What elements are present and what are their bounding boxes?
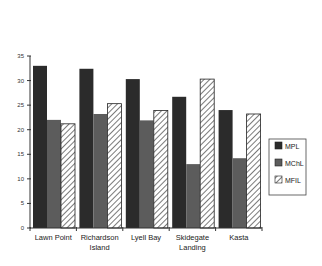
y-tick-label: 35 (17, 53, 24, 59)
y-tick-label: 5 (21, 200, 25, 206)
legend-swatch-mpl (275, 142, 282, 149)
x-category-label: Lyell Bay (131, 233, 161, 242)
legend-swatch-mchl (275, 159, 282, 166)
legend: MPLMChLMFIL (269, 139, 306, 195)
legend-label: MFIL (285, 177, 301, 184)
bar-chart: 05101520253035 Lawn PointRichardsonIslan… (0, 0, 322, 266)
bar-mfil (107, 104, 121, 228)
y-tick-label: 15 (17, 151, 24, 157)
bar-mpl (33, 66, 47, 228)
bar-mchl (93, 114, 107, 228)
y-tick-label: 20 (17, 127, 24, 133)
bars (33, 66, 261, 228)
legend-label: MChL (285, 160, 304, 167)
legend-swatch-mfil (275, 176, 282, 183)
bar-mpl (126, 79, 140, 228)
y-tick-label: 0 (21, 225, 25, 231)
bar-mchl (186, 164, 200, 228)
x-category-label: Lawn Point (35, 233, 73, 242)
bar-mfil (154, 111, 168, 228)
y-tick-label: 30 (17, 78, 24, 84)
bar-mfil (200, 79, 214, 228)
y-tick-label: 25 (17, 102, 24, 108)
x-category-label: SkidegateLanding (176, 233, 209, 252)
legend-label: MPL (285, 143, 300, 150)
bar-mfil (61, 124, 75, 228)
bar-mfil (247, 114, 261, 228)
bar-mchl (233, 158, 247, 228)
bar-mchl (140, 120, 154, 228)
y-axis: 05101520253035 (17, 53, 31, 231)
bar-mpl (219, 110, 233, 228)
bar-mchl (47, 120, 61, 228)
x-category-label: Kasta (229, 233, 249, 242)
x-category-label: RichardsonIsland (81, 233, 119, 252)
x-axis: Lawn PointRichardsonIslandLyell BaySkide… (30, 227, 262, 252)
bar-mpl (172, 97, 186, 228)
bar-mpl (79, 69, 93, 228)
y-tick-label: 10 (17, 176, 24, 182)
